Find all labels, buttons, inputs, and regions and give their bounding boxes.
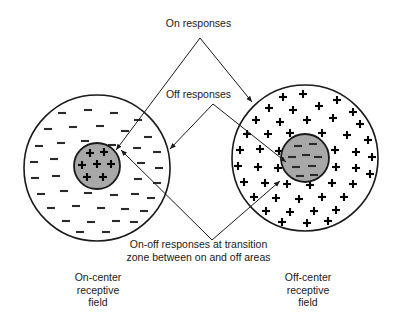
figure-canvas: On responses Off responses On-off respon… [0,0,397,322]
label-off-center-receptive-field: Off-center receptive field [238,271,378,309]
on-center-receptive-field [24,95,170,241]
label-on-center-receptive-field: On-center receptive field [28,271,168,309]
off-center-receptive-field [232,85,378,231]
label-on-off-responses: On-off responses at transition zone betw… [0,238,397,263]
label-off-responses: Off responses [0,88,397,101]
label-on-responses: On responses [0,17,397,30]
